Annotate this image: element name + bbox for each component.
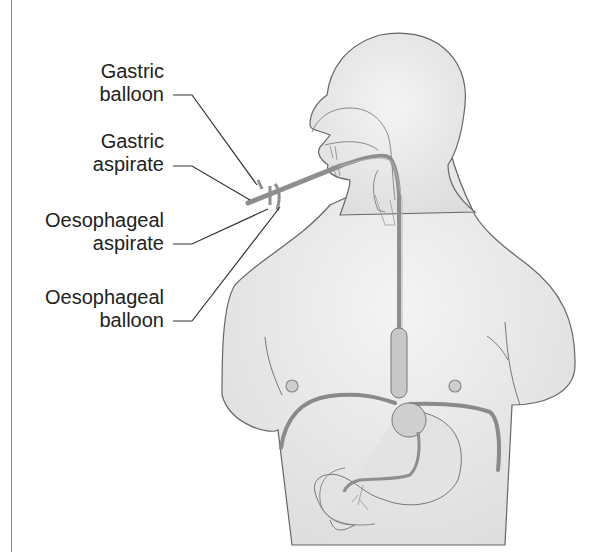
oesophageal-balloon-shape <box>391 328 407 398</box>
label-gastric-aspirate: Gastric aspirate <box>93 130 164 176</box>
leader-gastric-balloon <box>173 95 257 185</box>
leader-gastric-aspirate <box>173 166 250 200</box>
left-nipple <box>286 380 298 392</box>
leader-oesophageal-aspirate <box>173 209 268 244</box>
head-outline <box>310 33 475 215</box>
label-oesophageal-aspirate: Oesophageal aspirate <box>45 209 164 255</box>
anatomy-illustration <box>0 0 604 552</box>
gastric-balloon-shape <box>392 403 426 437</box>
right-nipple <box>449 380 461 392</box>
label-gastric-balloon: Gastric balloon <box>99 60 164 106</box>
label-oesophageal-balloon: Oesophageal balloon <box>45 286 164 332</box>
